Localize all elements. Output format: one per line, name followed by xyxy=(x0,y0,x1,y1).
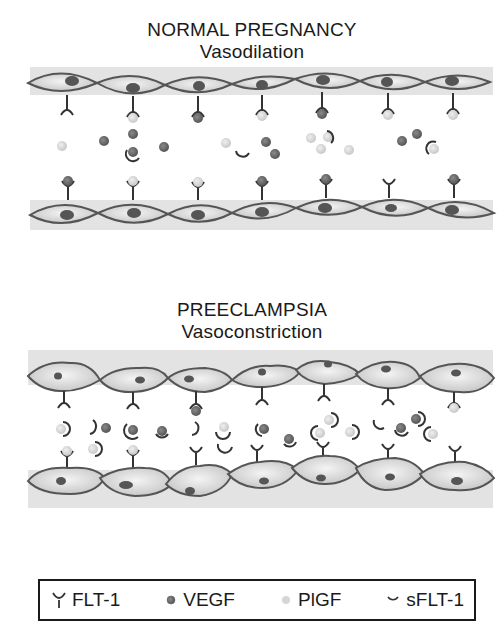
legend-item-flt1: FLT-1 xyxy=(52,589,120,611)
light-dot-icon xyxy=(280,594,292,606)
arc-icon xyxy=(386,593,400,607)
normal-panel xyxy=(28,67,494,230)
diagram-canvas xyxy=(0,0,504,570)
preeclampsia-panel xyxy=(28,350,494,508)
legend-item-vegf: VEGF xyxy=(165,589,235,611)
legend-label-plgf: PlGF xyxy=(298,589,341,611)
legend-box: FLT-1 VEGF PlGF sFLT-1 xyxy=(38,579,476,621)
bound-ligands-top xyxy=(128,109,458,123)
dark-dot-icon xyxy=(165,594,177,606)
legend-item-sflt1: sFLT-1 xyxy=(386,589,464,611)
bound-ligands-bottom xyxy=(63,174,459,187)
legend-label-sflt1: sFLT-1 xyxy=(406,589,464,611)
free-molecules-normal xyxy=(57,129,439,161)
legend-label-flt1: FLT-1 xyxy=(72,589,120,611)
bound-ligands-top xyxy=(191,403,459,416)
receptor-icon xyxy=(52,591,66,609)
legend-label-vegf: VEGF xyxy=(183,589,235,611)
legend-item-plgf: PlGF xyxy=(280,589,341,611)
free-molecules-preeclampsia xyxy=(56,412,438,456)
